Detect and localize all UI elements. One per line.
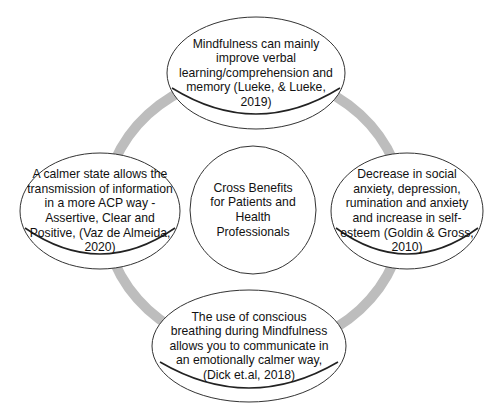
left-node: A calmer state allows the transmission o… [27, 160, 173, 262]
top-node: Mindfulness can mainly improve verbal le… [176, 27, 336, 119]
right-node: Decrease in social anxiety, depression, … [340, 160, 474, 262]
center-node-text: Cross Benefits for Patients and Health P… [205, 181, 301, 239]
left-node-text: A calmer state allows the transmission o… [27, 167, 173, 255]
bottom-node: The use of conscious breathing during Mi… [168, 296, 330, 396]
bottom-node-text: The use of conscious breathing during Mi… [168, 310, 330, 383]
center-node: Cross Benefits for Patients and Health P… [205, 170, 301, 250]
right-node-text: Decrease in social anxiety, depression, … [340, 167, 474, 255]
cycle-diagram: Mindfulness can mainly improve verbal le… [0, 0, 495, 414]
top-node-text: Mindfulness can mainly improve verbal le… [176, 37, 336, 110]
